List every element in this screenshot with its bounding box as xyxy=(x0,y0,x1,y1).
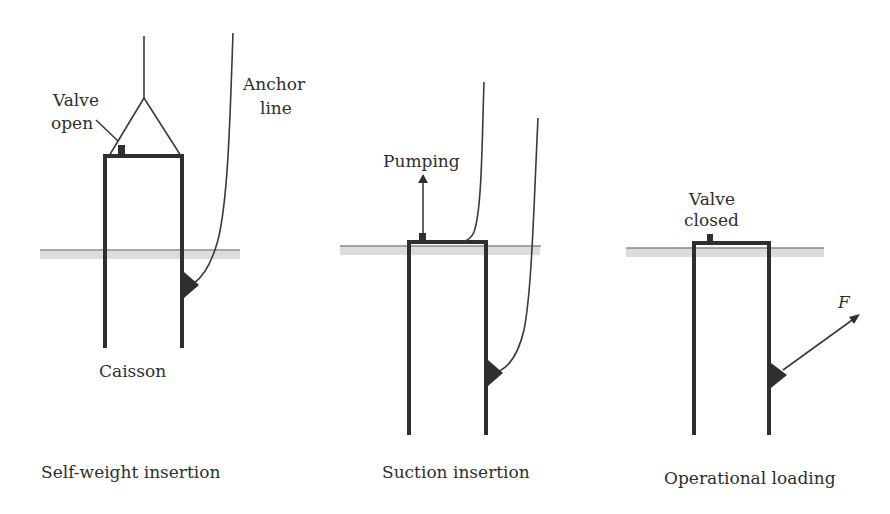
padeye-icon xyxy=(771,363,787,388)
anchor-line xyxy=(497,118,538,372)
caption-suction-insertion: Suction insertion xyxy=(382,462,530,482)
force-arrow-shaft xyxy=(783,318,855,370)
valve-open-icon xyxy=(118,145,125,155)
caption-operational-loading: Operational loading xyxy=(664,468,836,488)
pumping-label: Pumping xyxy=(383,151,460,171)
caisson-installation-diagram: Valve open Anchor line Caisson Self-weig… xyxy=(0,0,890,514)
seabed-band xyxy=(340,246,540,255)
arrow-force-icon xyxy=(849,314,860,324)
lift-line xyxy=(462,82,484,242)
valve-pointer-line xyxy=(96,120,118,141)
valve-closed-icon xyxy=(707,234,713,243)
panel-self-weight-insertion: Valve open Anchor line Caisson Self-weig… xyxy=(40,33,306,482)
seabed-band xyxy=(40,251,240,259)
valve-closed-label-1: Valve xyxy=(688,189,735,209)
valve-open-label-1: Valve xyxy=(52,90,99,110)
lifting-bridle xyxy=(109,36,181,156)
panel-suction-insertion: Pumping Suction insertion xyxy=(340,82,541,482)
pump-outlet-icon xyxy=(419,233,426,242)
caption-self-weight-insertion: Self-weight insertion xyxy=(41,462,220,482)
caisson xyxy=(407,242,488,435)
anchor-line-label-2: line xyxy=(260,98,292,118)
anchor-line-label-1: Anchor xyxy=(242,74,306,94)
anchor-line xyxy=(194,33,233,283)
valve-open-label-2: open xyxy=(51,113,93,133)
padeye-icon xyxy=(488,360,503,386)
arrow-up-icon xyxy=(418,174,428,183)
caisson xyxy=(692,243,771,435)
panel-operational-loading: Valve closed F Operational loading xyxy=(626,189,860,488)
caisson-label: Caisson xyxy=(99,361,166,381)
seabed-band xyxy=(626,248,824,257)
force-label: F xyxy=(837,292,851,312)
valve-closed-label-2: closed xyxy=(684,210,739,230)
padeye-icon xyxy=(184,272,199,298)
